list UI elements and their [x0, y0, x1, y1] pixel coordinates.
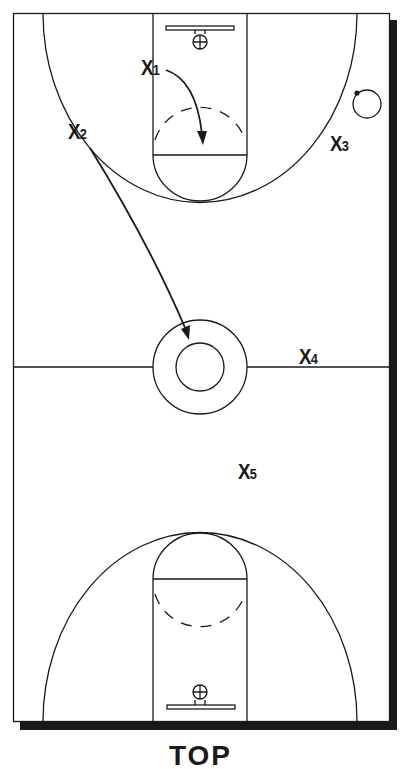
player-number: 5	[250, 465, 256, 482]
player-number: 2	[80, 125, 86, 142]
player-letter: X	[330, 131, 342, 156]
court-shadow-bottom	[20, 721, 397, 730]
player-number: 3	[342, 137, 348, 154]
player-letter: X	[141, 55, 153, 80]
player-letter: X	[238, 459, 250, 484]
player-x5: X5	[238, 461, 256, 483]
player-x3: X3	[330, 133, 348, 155]
player-x4: X4	[299, 346, 317, 368]
player-number: 4	[311, 350, 317, 367]
player-x2: X2	[68, 121, 86, 143]
court-shadow-right	[389, 20, 397, 730]
diagram-caption: TOP	[0, 740, 401, 769]
player-x1: X1	[141, 57, 159, 79]
player-letter: X	[68, 119, 80, 144]
player-letter: X	[299, 344, 311, 369]
player-number: 1	[153, 61, 159, 78]
ball-dot	[354, 90, 359, 95]
